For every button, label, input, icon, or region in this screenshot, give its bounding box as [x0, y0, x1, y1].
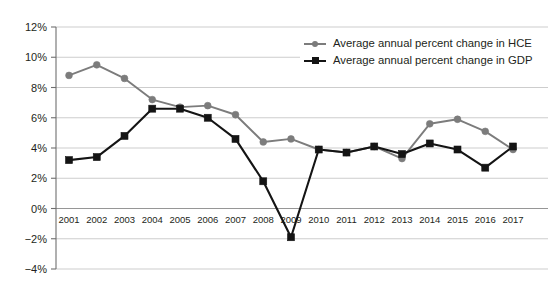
data-point-gdp-2012[interactable]	[371, 143, 378, 150]
data-point-gdp-2005[interactable]	[177, 105, 184, 112]
y-axis-tick-label: 10%	[25, 51, 47, 63]
legend-swatch-hce-icon	[304, 38, 326, 50]
x-axis-tick-label: 2014	[419, 214, 440, 225]
data-point-gdp-2007[interactable]	[232, 135, 239, 142]
data-point-hce-2008[interactable]	[260, 139, 267, 146]
data-point-gdp-2015[interactable]	[454, 146, 461, 153]
legend-marker-circle-icon	[312, 41, 318, 47]
data-point-hce-2006[interactable]	[204, 102, 211, 109]
x-axis-tick-label: 2012	[364, 214, 385, 225]
data-point-gdp-2006[interactable]	[204, 114, 211, 121]
x-axis-tick-label: 2011	[336, 214, 356, 225]
y-axis-tick-label: 8%	[31, 82, 47, 94]
chart-legend: Average annual percent change in HCE Ave…	[300, 33, 548, 71]
y-axis-tick-label: 0%	[31, 203, 47, 215]
y-axis-tick-label: −4%	[25, 263, 48, 275]
data-point-gdp-2011[interactable]	[343, 149, 350, 156]
y-axis-tick-label: 4%	[31, 142, 47, 154]
data-point-gdp-2014[interactable]	[426, 140, 433, 147]
x-axis-tick-label: 2013	[391, 214, 412, 225]
x-axis-tick-label: 2008	[253, 214, 274, 225]
data-point-gdp-2017[interactable]	[510, 143, 517, 150]
data-point-gdp-2008[interactable]	[260, 178, 267, 185]
data-point-hce-2009[interactable]	[288, 136, 295, 143]
data-point-hce-2001[interactable]	[66, 72, 73, 79]
legend-swatch-gdp-icon	[304, 55, 326, 67]
data-point-hce-2003[interactable]	[121, 75, 128, 82]
x-axis-tick-labels: 2001200220032004200520062007200820092010…	[58, 214, 523, 225]
data-point-gdp-2010[interactable]	[315, 146, 322, 153]
y-axis-tick-label: −2%	[25, 233, 48, 245]
data-point-hce-2004[interactable]	[149, 96, 156, 103]
y-axis-tick-label: 12%	[25, 21, 47, 33]
chart-container: 12%10%8%6%4%2%0%−2%−4%200120022003200420…	[0, 0, 553, 300]
data-point-gdp-2002[interactable]	[93, 154, 100, 161]
data-point-hce-2007[interactable]	[232, 111, 239, 118]
x-axis-tick-label: 2002	[86, 214, 107, 225]
x-axis-tick-label: 2003	[114, 214, 135, 225]
legend-item-hce[interactable]: Average annual percent change in HCE	[304, 35, 544, 52]
legend-item-gdp[interactable]: Average annual percent change in GDP	[304, 52, 544, 69]
series-line-hce	[69, 65, 513, 159]
data-point-gdp-2013[interactable]	[399, 151, 406, 158]
legend-marker-square-icon	[312, 57, 319, 64]
x-axis-tick-label: 2001	[58, 214, 79, 225]
x-axis-tick-label: 2006	[197, 214, 218, 225]
y-axis-tick-label: 2%	[31, 172, 47, 184]
x-axis-tick-label: 2017	[502, 214, 523, 225]
legend-label-gdp: Average annual percent change in GDP	[333, 52, 533, 69]
data-point-gdp-2004[interactable]	[149, 105, 156, 112]
data-point-hce-2014[interactable]	[426, 120, 433, 127]
y-axis-tick-label: 6%	[31, 112, 47, 124]
data-point-hce-2016[interactable]	[482, 128, 489, 135]
x-axis-tick-label: 2004	[142, 214, 163, 225]
data-point-hce-2015[interactable]	[454, 116, 461, 123]
data-point-gdp-2001[interactable]	[66, 157, 73, 164]
data-point-gdp-2016[interactable]	[482, 164, 489, 171]
data-point-gdp-2003[interactable]	[121, 132, 128, 139]
x-axis-tick-label: 2015	[447, 214, 468, 225]
x-axis-tick-label: 2010	[308, 214, 329, 225]
data-point-gdp-2009[interactable]	[288, 234, 295, 241]
x-axis-tick-label: 2007	[225, 214, 246, 225]
x-axis-tick-label: 2016	[475, 214, 496, 225]
data-point-hce-2002[interactable]	[93, 61, 100, 68]
x-axis-tick-label: 2005	[169, 214, 190, 225]
legend-label-hce: Average annual percent change in HCE	[333, 35, 532, 52]
